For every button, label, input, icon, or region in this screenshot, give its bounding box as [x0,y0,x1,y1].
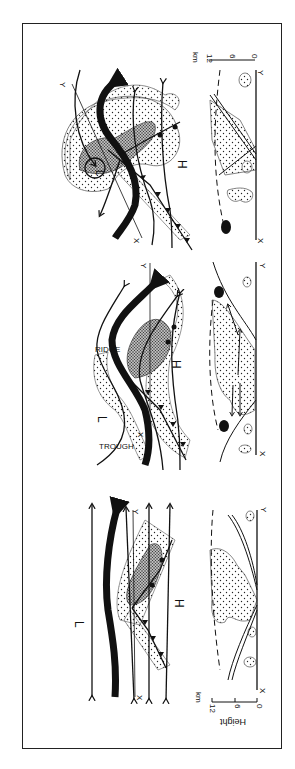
jet-core [219,420,229,432]
low-label: L [72,621,86,628]
cloud-mass [210,549,257,623]
small-cloud [248,627,256,637]
small-cloud [244,657,256,667]
height-axis-title: Height [219,717,246,727]
section-y-label: Y [139,263,148,269]
stage-2-section: Y X [210,262,267,462]
section-x-label: X [258,688,267,694]
tick-6: 6 [233,704,242,709]
high-label: H [169,360,183,369]
cloud-mass [212,300,255,415]
jet-stream [106,505,118,697]
section-y-label: Y [58,82,67,88]
height-unit-label: km [191,52,200,63]
trough-label: TROUGH [99,442,134,451]
height-unit-label: km [194,692,203,703]
ridge-label: RIDGE [95,345,120,354]
section-x-label: X [132,238,141,244]
small-cloud [239,445,251,453]
stage-2-plan: RIDGE TROUGH L H Y X [94,263,190,470]
section-x-label: X [135,695,144,701]
stage-1-plan: L H Y X [72,505,186,701]
stage-3-plan: L H Y X [58,70,192,250]
high-label: H [172,599,186,608]
small-cloud [243,277,251,287]
jet-core [221,220,231,234]
tick-6: 6 [228,54,237,59]
small-cloud [244,424,252,434]
section-x-label: X [258,451,267,457]
small-cloud [242,161,252,173]
stage-1-section: Y X km 12 6 0 Height [194,507,268,727]
section-x-label: X [256,238,265,244]
high-label: H [175,160,189,169]
section-y-label: Y [258,263,267,269]
cyclone-diagram: L H Y X Y X km 12 6 0 [0,0,295,769]
small-cloud [246,511,254,521]
low-label: L [94,170,105,176]
tick-0: 0 [250,54,259,59]
low-label: L [95,416,109,423]
small-cloud [239,73,251,87]
cumulus [227,188,252,202]
stage-3-section: Y X km 12 6 0 [191,52,265,244]
tick-12: 12 [205,54,214,63]
section-y-label: Y [259,507,268,513]
section-x-label: X [136,432,145,438]
section-y-label: Y [131,509,140,515]
tick-0: 0 [255,704,264,709]
tick-12: 12 [208,704,217,713]
section-y-label: Y [256,70,265,76]
jet-core [214,286,224,298]
